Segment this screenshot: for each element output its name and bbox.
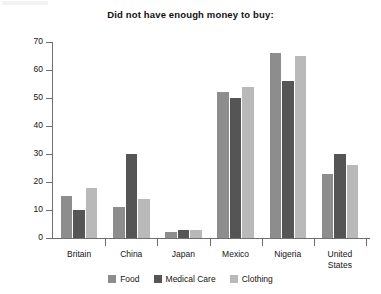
bar-group-nigeria xyxy=(270,42,307,238)
bar-mexico-clothing[interactable] xyxy=(242,87,254,238)
bar-chart: Did not have enough money to buy: 010203… xyxy=(0,0,381,294)
bar-nigeria-clothing[interactable] xyxy=(295,56,307,238)
bar-united-states-medical-care[interactable] xyxy=(334,154,346,238)
y-tick-label-60: 60 xyxy=(34,65,43,74)
y-tick-60 xyxy=(46,70,52,71)
x-label-britain: Britain xyxy=(53,249,105,260)
x-separator-4 xyxy=(314,239,315,246)
bar-united-states-food[interactable] xyxy=(322,174,334,238)
x-label-united-states: United States xyxy=(314,249,366,270)
bar-china-food[interactable] xyxy=(113,207,125,238)
x-label-mexico: Mexico xyxy=(210,249,262,260)
chart-title: Did not have enough money to buy: xyxy=(0,9,381,20)
bar-nigeria-medical-care[interactable] xyxy=(282,81,294,238)
x-axis-line xyxy=(52,238,370,239)
chart-legend: FoodMedical CareClothing xyxy=(0,274,381,284)
legend-item-medical-care[interactable]: Medical Care xyxy=(154,274,216,284)
bar-britain-food[interactable] xyxy=(61,196,73,238)
y-tick-label-10: 10 xyxy=(34,205,43,214)
bar-group-japan xyxy=(165,42,202,238)
scan-artifact xyxy=(2,1,48,5)
y-tick-label-0: 0 xyxy=(38,233,43,242)
bar-united-states-clothing[interactable] xyxy=(347,165,359,238)
y-tick-label-70: 70 xyxy=(34,37,43,46)
y-tick-10 xyxy=(46,210,52,211)
bar-group-china xyxy=(113,42,150,238)
y-tick-label-20: 20 xyxy=(34,177,43,186)
x-separator-1 xyxy=(157,239,158,246)
bar-group-mexico xyxy=(217,42,254,238)
plot-area xyxy=(53,42,366,238)
legend-swatch-clothing-icon xyxy=(230,275,238,283)
bar-mexico-food[interactable] xyxy=(217,92,229,238)
bar-japan-food[interactable] xyxy=(165,232,177,238)
bar-japan-medical-care[interactable] xyxy=(178,230,190,238)
x-separator-2 xyxy=(210,239,211,246)
y-tick-label-40: 40 xyxy=(34,121,43,130)
legend-label-medical-care: Medical Care xyxy=(166,274,216,284)
bar-britain-medical-care[interactable] xyxy=(73,210,85,238)
legend-item-clothing[interactable]: Clothing xyxy=(230,274,273,284)
y-tick-50 xyxy=(46,98,52,99)
y-tick-0 xyxy=(46,238,52,239)
y-tick-40 xyxy=(46,126,52,127)
bar-china-medical-care[interactable] xyxy=(126,154,138,238)
bar-group-united-states xyxy=(322,42,359,238)
legend-swatch-food-icon xyxy=(108,275,116,283)
bar-japan-clothing[interactable] xyxy=(190,230,202,238)
bar-britain-clothing[interactable] xyxy=(86,188,98,238)
y-tick-30 xyxy=(46,154,52,155)
x-label-china: China xyxy=(105,249,157,260)
legend-label-food: Food xyxy=(120,274,139,284)
bar-china-clothing[interactable] xyxy=(138,199,150,238)
x-separator-0 xyxy=(105,239,106,246)
x-separator-5 xyxy=(366,239,367,246)
x-label-nigeria: Nigeria xyxy=(262,249,314,260)
bar-group-britain xyxy=(61,42,98,238)
y-tick-70 xyxy=(46,42,52,43)
legend-item-food[interactable]: Food xyxy=(108,274,139,284)
bar-nigeria-food[interactable] xyxy=(270,53,282,238)
bar-mexico-medical-care[interactable] xyxy=(230,98,242,238)
x-label-japan: Japan xyxy=(157,249,209,260)
legend-swatch-medical-care-icon xyxy=(154,275,162,283)
y-tick-label-30: 30 xyxy=(34,149,43,158)
x-separator-3 xyxy=(262,239,263,246)
legend-label-clothing: Clothing xyxy=(242,274,273,284)
y-tick-label-50: 50 xyxy=(34,93,43,102)
y-tick-20 xyxy=(46,182,52,183)
